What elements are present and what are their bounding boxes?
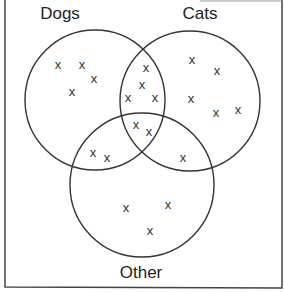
x-mark: x — [235, 102, 242, 117]
x-mark: x — [214, 63, 221, 78]
universal-set-border — [5, 0, 282, 288]
set-label-cats: Cats — [183, 4, 218, 23]
venn-diagram: DogsCatsOther xxxxxxxxxxxxxxxxxxxxx — [0, 0, 284, 292]
x-mark: x — [165, 197, 172, 212]
x-mark: x — [90, 145, 97, 160]
x-mark: x — [180, 150, 187, 165]
x-mark: x — [188, 91, 195, 106]
x-mark: x — [125, 90, 132, 105]
x-mark: x — [152, 90, 159, 105]
x-mark: x — [139, 77, 146, 92]
set-label-dogs: Dogs — [40, 4, 80, 23]
x-mark: x — [189, 52, 196, 67]
x-mark: x — [133, 117, 140, 132]
x-mark: x — [69, 84, 76, 99]
x-mark: x — [143, 60, 150, 75]
set-label-other: Other — [120, 263, 163, 282]
venn-svg: DogsCatsOther xxxxxxxxxxxxxxxxxxxxx — [0, 0, 284, 292]
x-mark: x — [146, 124, 153, 139]
x-mark: x — [79, 57, 86, 72]
x-mark: x — [104, 150, 111, 165]
x-mark: x — [147, 223, 154, 238]
set-circle-other — [70, 113, 214, 257]
x-mark: x — [91, 71, 98, 86]
x-mark: x — [55, 57, 62, 72]
x-mark: x — [123, 200, 130, 215]
x-mark: x — [213, 105, 220, 120]
set-labels: DogsCatsOther — [40, 4, 217, 282]
